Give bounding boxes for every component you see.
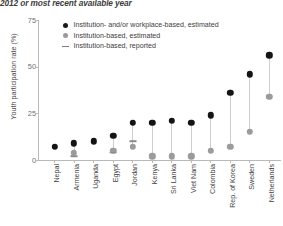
chart-title: 2012 or most recent available year [0,0,283,8]
x-axis-label-armenia: Armenia [77,164,85,190]
y-tick-mark-0 [35,160,39,161]
y-tick-mark-50 [35,67,39,68]
data-point-estimated [188,119,194,125]
connector-line [152,123,153,157]
x-axis-label-netherlands: Netherlands [272,164,280,202]
data-point-institution-based [247,129,253,135]
x-axis-label-egypt: Egypt [116,164,124,182]
data-point-institution-based [129,144,135,150]
legend-label: Institution-based, reported [74,42,156,50]
data-point-estimated [227,90,233,96]
legend-item-0: Institution- and/or workplace-based, est… [60,20,219,31]
data-point-estimated [110,133,116,139]
data-point-estimated [71,140,77,146]
x-tick-mark [132,160,133,163]
x-tick-mark [171,160,172,163]
legend-item-1: Institution-based, estimated [60,31,219,42]
dot-grey-icon [60,33,71,38]
y-tick-label-50: 50 [0,62,36,71]
data-point-institution-based [266,93,272,99]
y-tick-mark-75 [35,20,39,21]
y-tick-mark-25 [35,113,39,114]
x-tick-mark [152,160,153,163]
y-axis-line [38,20,39,161]
x-axis-label-jordan: Jordan [135,164,143,186]
y-tick-label-25: 25 [0,109,36,118]
data-point-institution-based [208,147,214,153]
data-point-institution-based [188,153,194,159]
data-point-institution-based [168,153,174,159]
legend-item-2: Institution-based, reported [60,41,219,52]
x-tick-mark [74,160,75,163]
x-tick-mark [269,160,270,163]
x-tick-mark [93,160,94,163]
dash-icon [60,46,71,47]
x-axis-label-nepal: Nepal [57,164,65,183]
x-axis-label-rep-of-korea: Rep. of Korea [233,164,241,208]
data-point-reported [129,141,136,143]
connector-line [171,121,172,156]
x-axis-label-uganda: Uganda [96,164,104,189]
legend-label: Institution- and/or workplace-based, est… [74,21,219,29]
data-point-estimated [247,71,253,77]
x-axis-label-kenya: Kenya [155,164,163,184]
x-axis-label-sweden: Sweden [252,164,260,190]
chart-container: 2012 or most recent available year Youth… [0,0,283,226]
connector-line [249,74,250,132]
x-tick-mark [230,160,231,163]
data-point-reported [71,155,78,157]
x-tick-mark [210,160,211,163]
x-axis-label-sri-lanka: Sri Lanka [174,164,182,194]
data-point-reported [110,152,117,154]
dot-black-icon [60,23,71,28]
y-tick-label-75: 75 [0,16,36,25]
connector-line [269,55,270,96]
legend-label: Institution-based, estimated [74,32,161,40]
x-axis-label-colombia: Colombia [213,164,221,194]
connector-line [210,115,211,150]
data-point-estimated [208,112,214,118]
x-tick-mark [249,160,250,163]
x-axis-label-viet-nam: Viet Nam [194,164,202,193]
data-point-estimated [90,138,96,144]
connector-line [191,123,192,157]
x-tick-mark [191,160,192,163]
data-point-institution-based [149,153,155,159]
data-point-estimated [149,119,155,125]
data-point-estimated [129,119,135,125]
x-tick-mark [113,160,114,163]
x-tick-mark [54,160,55,163]
data-point-institution-based [227,144,233,150]
chart-legend: Institution- and/or workplace-based, est… [60,20,219,52]
y-tick-label-0: 0 [0,156,36,165]
data-point-estimated [51,144,57,150]
connector-line [230,93,231,147]
data-point-estimated [168,118,174,124]
data-point-estimated [266,52,272,58]
y-axis-label: Youth participation rate (%) [9,17,18,137]
